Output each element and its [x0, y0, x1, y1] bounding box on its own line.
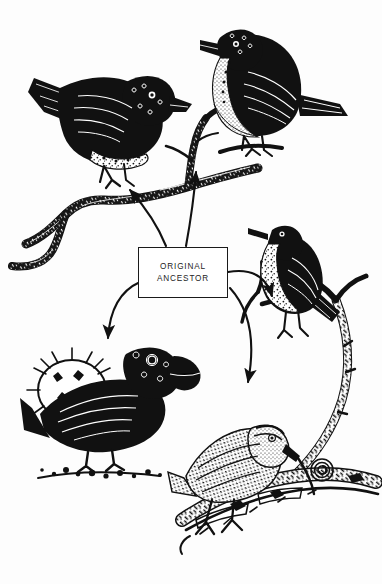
darwin-finches-figure: ORIGINAL ANCESTOR [0, 0, 382, 584]
original-ancestor-line-1: ORIGINAL [160, 261, 206, 273]
original-ancestor-line-2: ANCESTOR [157, 273, 209, 285]
original-ancestor-box: ORIGINAL ANCESTOR [138, 247, 228, 298]
figure-caption [0, 572, 382, 584]
